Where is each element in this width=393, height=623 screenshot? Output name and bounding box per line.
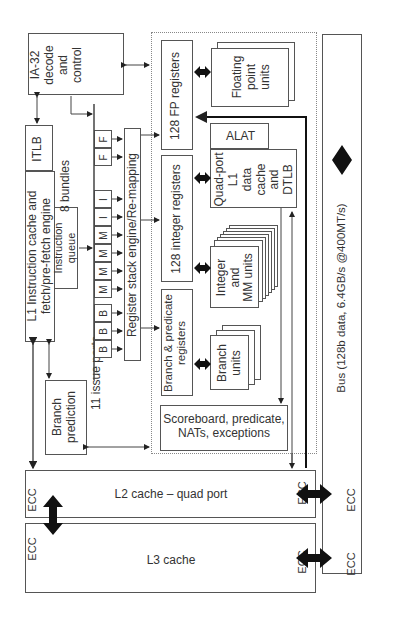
fp-registers-label: 128 FP registers xyxy=(169,41,185,151)
branch-units: Branch units xyxy=(210,335,249,390)
alat-block: ALAT xyxy=(210,123,269,149)
register-stack-engine-label: Register stack engine/Re-mapping xyxy=(126,129,142,362)
bus-label: Bus (128b data, 6.4GB/s @400MT/s) xyxy=(335,168,351,428)
l3-cache-label: L3 cache xyxy=(106,554,236,568)
ia32-decode-label: IA-32 decode and control xyxy=(33,34,81,96)
l2-cache-label: L2 cache – quad port xyxy=(86,488,256,502)
issue-port-b3: B xyxy=(94,304,112,322)
scoreboard-block: Scoreboard, predicate, NATs, exceptions xyxy=(160,405,288,451)
bus-ecc-upper: ECC xyxy=(345,485,359,515)
issue-port-m1: M xyxy=(94,280,112,298)
l2-ecc-right: ECC xyxy=(296,478,310,508)
register-stack-engine: Register stack engine/Re-mapping xyxy=(124,128,141,361)
branch-prediction-block: Branch prediction xyxy=(45,380,87,455)
issue-port-b1: B xyxy=(94,340,112,358)
alat-label: ALAT xyxy=(211,130,270,144)
issue-port-m2: M xyxy=(94,262,112,280)
ia32-decode-block: IA-32 decode and control xyxy=(28,33,124,95)
scoreboard-label: Scoreboard, predicate, NATs, exceptions xyxy=(161,413,287,441)
bundles-label: 8 bundles xyxy=(59,156,75,216)
l2-ecc-left: ECC xyxy=(26,485,40,515)
integer-mm-units: Integer and MM units xyxy=(210,246,259,308)
l3-cache-block: L3 cache ECC ECC xyxy=(25,523,316,593)
issue-port-f2: F xyxy=(94,130,112,148)
branch-predicate-registers: Branch & predicate registers xyxy=(161,289,193,396)
instruction-queue-label: Instruction queue xyxy=(52,207,82,289)
issue-port-m4: M xyxy=(94,226,112,244)
fp-units-label: Floating point units xyxy=(223,48,281,107)
issue-port-b2: B xyxy=(94,322,112,340)
issue-port-f1: F xyxy=(94,148,112,166)
l1-instruction-cache: L1 Instruction cache and fetch/pre-fetch… xyxy=(25,171,55,342)
l2-cache-block: L2 cache – quad port ECC ECC xyxy=(25,470,316,518)
integer-registers: 128 integer registers xyxy=(161,155,193,282)
integer-mm-units-label: Integer and MM units xyxy=(212,247,259,309)
itlb-label: ITLB xyxy=(31,126,49,172)
issue-port-i1: I xyxy=(94,208,112,226)
branch-prediction-label: Branch prediction xyxy=(51,380,83,455)
itlb-block: ITLB xyxy=(25,125,53,171)
issue-port-m3: M xyxy=(94,244,112,262)
l1-data-cache-label: Quad-port L1 data cache and DTLB xyxy=(211,150,298,209)
bus-ecc-lower: ECC xyxy=(345,549,359,579)
fp-registers: 128 FP registers xyxy=(161,40,193,150)
instruction-queue: Instruction queue xyxy=(54,207,78,289)
issue-port-i2: I xyxy=(94,190,112,208)
branch-units-label: Branch units xyxy=(212,336,248,391)
branch-predicate-registers-label: Branch & predicate registers xyxy=(162,290,194,397)
l1-data-cache: Quad-port L1 data cache and DTLB xyxy=(210,149,297,208)
l3-ecc-left: ECC xyxy=(26,534,40,564)
fp-units: Floating point units xyxy=(211,48,289,107)
integer-registers-label: 128 integer registers xyxy=(170,156,186,283)
l3-ecc-right: ECC xyxy=(296,547,310,577)
